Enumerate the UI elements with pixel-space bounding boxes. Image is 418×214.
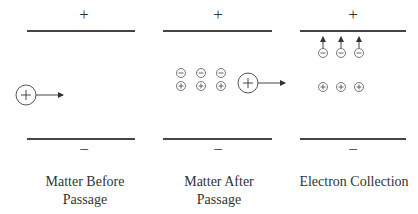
ion-row xyxy=(177,82,226,91)
caption-line-1: Matter After xyxy=(157,173,281,191)
electron-row xyxy=(177,69,226,78)
panel-matter-before-passage xyxy=(16,31,135,139)
caption-line-1: Electron Collection xyxy=(290,173,418,191)
negative-sign: − xyxy=(203,141,233,159)
caption-line-1: Matter Before xyxy=(20,173,150,191)
panel-electron-collection xyxy=(300,31,406,139)
negative-sign: − xyxy=(69,141,99,159)
caption-matter-after-passage: Matter After Passage xyxy=(157,173,281,209)
positive-sign: + xyxy=(338,6,368,24)
collected-electrons xyxy=(319,37,364,58)
positive-sign: + xyxy=(203,6,233,24)
caption-line-2: Passage xyxy=(157,191,281,209)
ion-row xyxy=(319,83,364,92)
caption-electron-collection: Electron Collection xyxy=(290,173,418,191)
positive-sign: + xyxy=(69,6,99,24)
caption-line-2: Passage xyxy=(20,191,150,209)
caption-matter-before-passage: Matter Before Passage xyxy=(20,173,150,209)
panel-matter-after-passage xyxy=(163,31,285,139)
negative-sign: − xyxy=(338,141,368,159)
incident-particle xyxy=(16,85,63,105)
incident-particle xyxy=(238,73,285,93)
